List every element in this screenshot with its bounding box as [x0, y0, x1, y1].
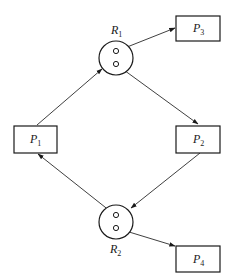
resource-instance-dot: [113, 212, 118, 217]
edge-r2-to-p1: [38, 154, 115, 215]
resource-label: R1: [110, 23, 122, 39]
resource-r1: R1: [99, 23, 133, 75]
edge-p1-to-r1: [37, 69, 102, 125]
edge-p2-to-r2: [131, 153, 200, 208]
resource-instance-dot: [113, 225, 118, 230]
process-p1: P1: [14, 126, 57, 153]
resource-instance-dot: [113, 61, 118, 66]
process-p2: P2: [176, 126, 220, 153]
resource-r2: R2: [99, 205, 133, 258]
process-p3: P3: [176, 16, 220, 41]
resource-label: R2: [109, 242, 121, 258]
edge-r1-to-p2: [117, 65, 198, 124]
resource-circle: [99, 41, 133, 75]
process-p4: P4: [176, 246, 220, 272]
resource-circle: [99, 205, 133, 239]
resource-allocation-graph: R1 R2 P3 P1 P2 P4: [0, 0, 235, 278]
resource-instance-dot: [113, 48, 118, 53]
